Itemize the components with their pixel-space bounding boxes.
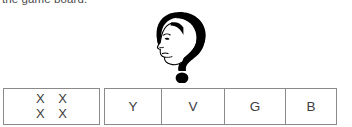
letter-tile-label: Y xyxy=(128,100,137,114)
letter-tile-g[interactable]: G xyxy=(224,88,286,125)
score-row-1: X X xyxy=(31,91,72,106)
question-mark-head-silhouette xyxy=(143,9,217,83)
letter-tile-b[interactable]: B xyxy=(285,88,337,125)
letter-tile-label: B xyxy=(306,100,315,114)
letter-tile-label: V xyxy=(188,100,197,114)
game-board-row: X X X X Y V G B xyxy=(3,88,341,125)
letter-tile-label: G xyxy=(250,100,261,114)
question-mark-dot xyxy=(176,72,189,83)
caption-text: the game board. xyxy=(2,0,87,6)
score-row-2: X X xyxy=(31,106,72,121)
letter-tile-v[interactable]: V xyxy=(161,88,225,125)
question-mark-head-icon xyxy=(143,9,217,83)
score-cell[interactable]: X X X X xyxy=(3,88,100,125)
page-root: the game board. xyxy=(0,0,352,127)
game-board: X X X X Y V G B xyxy=(3,88,341,125)
letter-tile-y[interactable]: Y xyxy=(104,88,162,125)
